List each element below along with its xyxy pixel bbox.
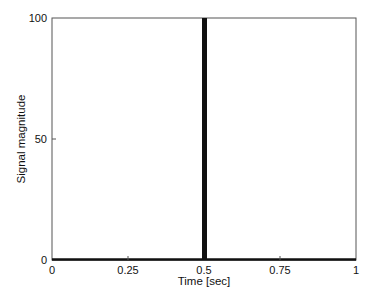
y-tick-1: 50 [35,133,47,145]
y-tick-0: 0 [41,254,47,266]
y-axis-label: Signal magnitude [15,95,27,184]
y-tick-2: 100 [29,12,47,24]
x-axis-label: Time [sec] [178,275,231,287]
chart: 0 0.25 0.5 0.75 1 0 50 100 Time [sec] Si… [0,0,376,293]
x-tick-3: 0.75 [269,264,290,276]
x-tick-1: 0.25 [117,264,138,276]
impulse-spike [202,18,207,260]
x-tick-0: 0 [49,264,55,276]
x-tick-4: 1 [353,264,359,276]
